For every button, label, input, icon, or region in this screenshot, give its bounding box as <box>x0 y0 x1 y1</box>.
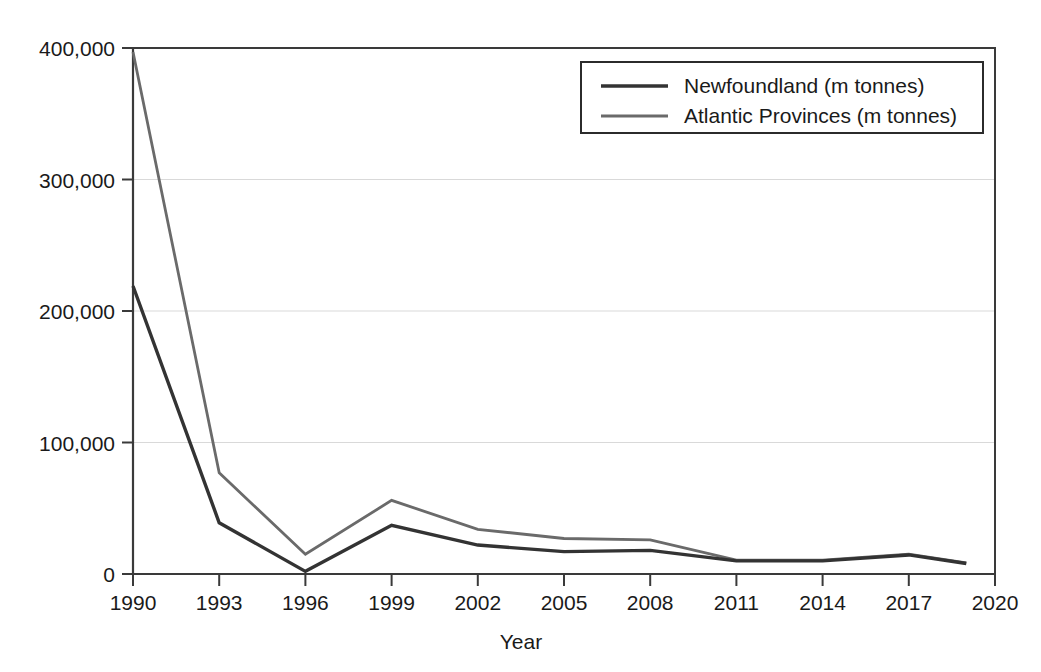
x-tick-label: 1993 <box>196 591 243 614</box>
x-tick-marks <box>133 574 995 586</box>
y-tick-marks <box>122 48 133 574</box>
y-tick-label: 0 <box>103 563 115 586</box>
x-axis-title: Year <box>500 630 542 653</box>
gridlines <box>133 180 995 443</box>
y-tick-label: 300,000 <box>39 169 115 192</box>
legend-label-newfoundland: Newfoundland (m tonnes) <box>684 74 924 97</box>
x-tick-label: 2002 <box>454 591 501 614</box>
legend: Newfoundland (m tonnes) Atlantic Provinc… <box>581 62 983 133</box>
x-tick-label: 1999 <box>368 591 415 614</box>
x-tick-label: 2014 <box>799 591 846 614</box>
x-tick-label: 2008 <box>627 591 674 614</box>
legend-label-atlantic-provinces: Atlantic Provinces (m tonnes) <box>684 104 957 127</box>
line-chart: 0100,000200,000300,000400,000 1990199319… <box>0 0 1041 672</box>
y-tick-labels: 0100,000200,000300,000400,000 <box>39 37 115 586</box>
x-tick-label: 1990 <box>110 591 157 614</box>
y-tick-label: 100,000 <box>39 432 115 455</box>
x-tick-label: 2005 <box>541 591 588 614</box>
x-tick-label: 1996 <box>282 591 329 614</box>
x-tick-label: 2011 <box>714 591 759 614</box>
x-tick-label: 2020 <box>972 591 1019 614</box>
chart-canvas: 0100,000200,000300,000400,000 1990199319… <box>0 0 1041 672</box>
x-tick-labels: 1990199319961999200220052008201120142017… <box>110 591 1019 614</box>
series-line <box>133 286 966 571</box>
x-tick-label: 2017 <box>885 591 932 614</box>
y-tick-label: 400,000 <box>39 37 115 60</box>
y-tick-label: 200,000 <box>39 300 115 323</box>
